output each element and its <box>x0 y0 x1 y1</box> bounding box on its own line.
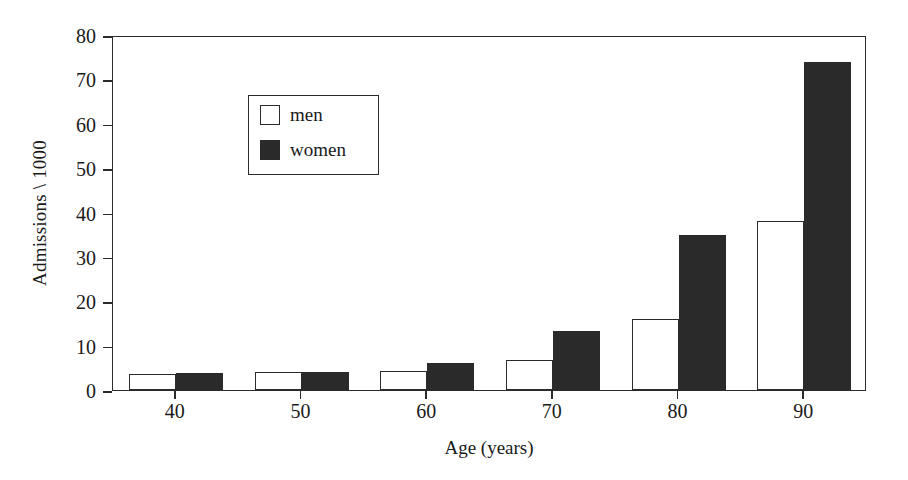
x-axis-tick-mark <box>174 391 176 399</box>
bar-men-50 <box>255 372 302 390</box>
y-axis-tick-label: 80 <box>76 23 96 49</box>
legend-label-women: women <box>290 140 346 160</box>
bar-men-80 <box>632 319 679 390</box>
x-axis-tick-mark <box>425 391 427 399</box>
legend-box: men women <box>248 95 379 175</box>
y-axis-tick-label: 0 <box>86 378 96 404</box>
y-axis-tick-mark <box>103 125 112 127</box>
bar-women-80 <box>679 235 726 390</box>
x-axis-tick-label: 40 <box>135 400 215 423</box>
bar-women-60 <box>427 363 474 391</box>
x-axis-tick-label: 80 <box>638 400 718 423</box>
y-axis-tick-label: 30 <box>76 245 96 271</box>
y-axis-tick-label: 40 <box>76 201 96 227</box>
x-axis-title: Age (years) <box>112 437 866 459</box>
y-axis-tick-mark <box>103 391 112 393</box>
y-axis-tick-label: 70 <box>76 67 96 93</box>
y-axis-tick: 30 <box>0 258 112 259</box>
y-axis-tick-mark <box>103 36 112 38</box>
y-axis-tick-mark <box>103 258 112 260</box>
bar-women-70 <box>553 331 600 390</box>
y-axis-tick: 60 <box>0 125 112 126</box>
bar-women-40 <box>176 373 223 390</box>
y-axis-tick-mark <box>103 302 112 304</box>
y-axis-tick-label: 20 <box>76 289 96 315</box>
y-axis-tick: 0 <box>0 391 112 392</box>
y-axis-tick: 20 <box>0 302 112 303</box>
y-axis-tick-label: 50 <box>76 156 96 182</box>
x-axis-tick-mark <box>551 391 553 399</box>
bar-men-70 <box>506 360 553 390</box>
x-axis-tick-mark <box>677 391 679 399</box>
y-axis-tick: 40 <box>0 214 112 215</box>
y-axis-tick: 50 <box>0 169 112 170</box>
y-axis-tick: 70 <box>0 80 112 81</box>
x-axis-tick-label: 60 <box>386 400 466 423</box>
bar-women-90 <box>804 62 851 390</box>
plot-area: men women <box>112 36 866 391</box>
y-axis-tick-label: 60 <box>76 112 96 138</box>
y-axis-tick-label: 10 <box>76 334 96 360</box>
y-axis-tick-mark <box>103 214 112 216</box>
y-axis-tick: 80 <box>0 36 112 37</box>
legend-swatch-men-icon <box>260 105 280 125</box>
x-axis-tick-label: 90 <box>763 400 843 423</box>
y-axis-tick-mark <box>103 347 112 349</box>
x-axis-tick-label: 70 <box>512 400 592 423</box>
legend-entry-men: men <box>260 105 323 125</box>
bar-women-50 <box>302 372 349 390</box>
y-axis-tick: 10 <box>0 347 112 348</box>
legend-label-men: men <box>290 105 323 125</box>
y-axis-tick-mark <box>103 80 112 82</box>
bar-men-60 <box>380 371 427 390</box>
bar-chart-figure: Admissions \ 1000 01020304050607080 men … <box>0 0 908 480</box>
y-axis-tick-mark <box>103 169 112 171</box>
x-axis-tick-mark <box>802 391 804 399</box>
x-axis-tick-label: 50 <box>261 400 341 423</box>
bar-men-90 <box>757 221 804 390</box>
legend-entry-women: women <box>260 140 346 160</box>
legend-swatch-women-icon <box>260 140 280 160</box>
bar-men-40 <box>129 374 176 390</box>
x-axis-tick-mark <box>300 391 302 399</box>
